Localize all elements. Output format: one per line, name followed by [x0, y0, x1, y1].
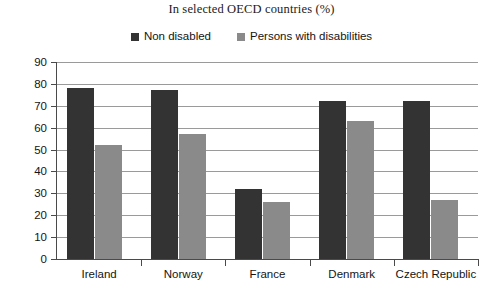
gridline: [57, 84, 478, 85]
y-tick-label: 20: [34, 209, 47, 221]
y-tick-label: 50: [34, 144, 47, 156]
y-tick: 90: [51, 62, 57, 63]
y-tick-label: 90: [34, 56, 47, 68]
chart-title: In selected OECD countries (%): [0, 2, 503, 17]
plot-area: 0102030405060708090: [57, 62, 478, 259]
legend-swatch-icon-non-disabled: [131, 33, 139, 41]
y-tick: 50: [51, 150, 57, 151]
legend-label-persons-with-disabilities: Persons with disabilities: [250, 31, 372, 43]
y-tick: 70: [51, 106, 57, 107]
bar-france-non-disabled[interactable]: [235, 189, 262, 259]
y-tick-label: 80: [34, 78, 47, 90]
y-axis: [56, 62, 57, 260]
legend-label-non-disabled: Non disabled: [144, 31, 211, 43]
legend-item-non-disabled[interactable]: Non disabled: [131, 31, 211, 43]
y-tick: 10: [51, 237, 57, 238]
category-label-norway: Norway: [164, 268, 203, 280]
bar-france-persons-with-disabilities[interactable]: [263, 202, 290, 259]
y-tick-label: 0: [41, 253, 47, 265]
bar-norway-non-disabled[interactable]: [151, 90, 178, 259]
x-tick: [310, 259, 311, 266]
bar-czech-republic-non-disabled[interactable]: [403, 101, 430, 259]
x-tick-end: [478, 259, 479, 266]
bar-denmark-persons-with-disabilities[interactable]: [347, 121, 374, 259]
y-tick-label: 40: [34, 165, 47, 177]
legend-item-persons-with-disabilities[interactable]: Persons with disabilities: [237, 31, 372, 43]
y-tick: 60: [51, 128, 57, 129]
bar-ireland-non-disabled[interactable]: [67, 88, 94, 259]
category-label-czech-republic: Czech Republic: [396, 268, 477, 280]
y-tick: 30: [51, 193, 57, 194]
bar-denmark-non-disabled[interactable]: [319, 101, 346, 259]
y-tick-label: 70: [34, 100, 47, 112]
y-tick-label: 30: [34, 187, 47, 199]
y-tick-label: 60: [34, 122, 47, 134]
bar-norway-persons-with-disabilities[interactable]: [179, 134, 206, 259]
legend-swatch-icon-persons-with-disabilities: [237, 33, 245, 41]
category-label-ireland: Ireland: [82, 268, 117, 280]
y-tick-label: 10: [34, 231, 47, 243]
category-label-denmark: Denmark: [328, 268, 375, 280]
bar-ireland-persons-with-disabilities[interactable]: [95, 145, 122, 259]
category-label-france: France: [250, 268, 286, 280]
x-tick: [141, 259, 142, 266]
bar-czech-republic-persons-with-disabilities[interactable]: [431, 200, 458, 259]
x-axis: [56, 259, 479, 260]
chart-legend: Non disabled Persons with disabilities: [0, 31, 503, 43]
y-tick: 0: [51, 259, 57, 260]
plot-top-border: [57, 62, 478, 63]
chart-figure: In selected OECD countries (%) Non disab…: [0, 0, 503, 290]
x-tick: [225, 259, 226, 266]
x-tick: [394, 259, 395, 266]
y-tick: 20: [51, 215, 57, 216]
y-tick: 40: [51, 171, 57, 172]
y-tick: 80: [51, 84, 57, 85]
